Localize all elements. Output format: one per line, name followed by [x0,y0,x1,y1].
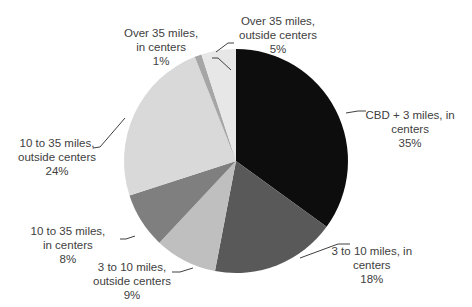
slice-label: Over 35 miles,in centers1% [124,26,198,68]
slice-label: 10 to 35 miles,in centers8% [31,224,106,266]
slice-label-text: centers [332,258,413,272]
leader-line-3 [120,236,135,239]
slice-label-text: outside centers [239,28,317,42]
slice-label-text: Over 35 miles, [124,26,198,40]
slice-percent: 1% [124,54,198,68]
slice-label-text: centers [366,122,455,136]
slice-percent: 5% [239,42,317,56]
slice-percent: 8% [31,252,106,266]
leader-line-2 [172,268,193,272]
leader-line-4 [93,118,125,148]
slice-label-text: in centers [31,238,106,252]
slice-label: 3 to 10 miles,outside centers9% [93,260,171,302]
slice-label: CBD + 3 miles, incenters35% [366,108,455,150]
slice-label-text: 10 to 35 miles, [31,224,106,238]
slice-label: 10 to 35 miles,outside centers24% [18,136,96,178]
slice-label-text: outside centers [93,274,171,288]
slice-label-text: 3 to 10 miles, in [332,244,413,258]
slice-label-text: outside centers [18,150,96,164]
slice-percent: 35% [366,136,455,150]
slice-percent: 18% [332,272,413,286]
slice-label-text: 10 to 35 miles, [18,136,96,150]
slice-percent: 24% [18,164,96,178]
slice-label: 3 to 10 miles, incenters18% [332,244,413,286]
slice-label: Over 35 miles,outside centers5% [239,14,317,56]
slice-percent: 9% [93,288,171,302]
slice-label-text: Over 35 miles, [239,14,317,28]
slice-label-text: in centers [124,40,198,54]
slice-label-text: CBD + 3 miles, in [366,108,455,122]
leader-line-0 [346,111,366,113]
